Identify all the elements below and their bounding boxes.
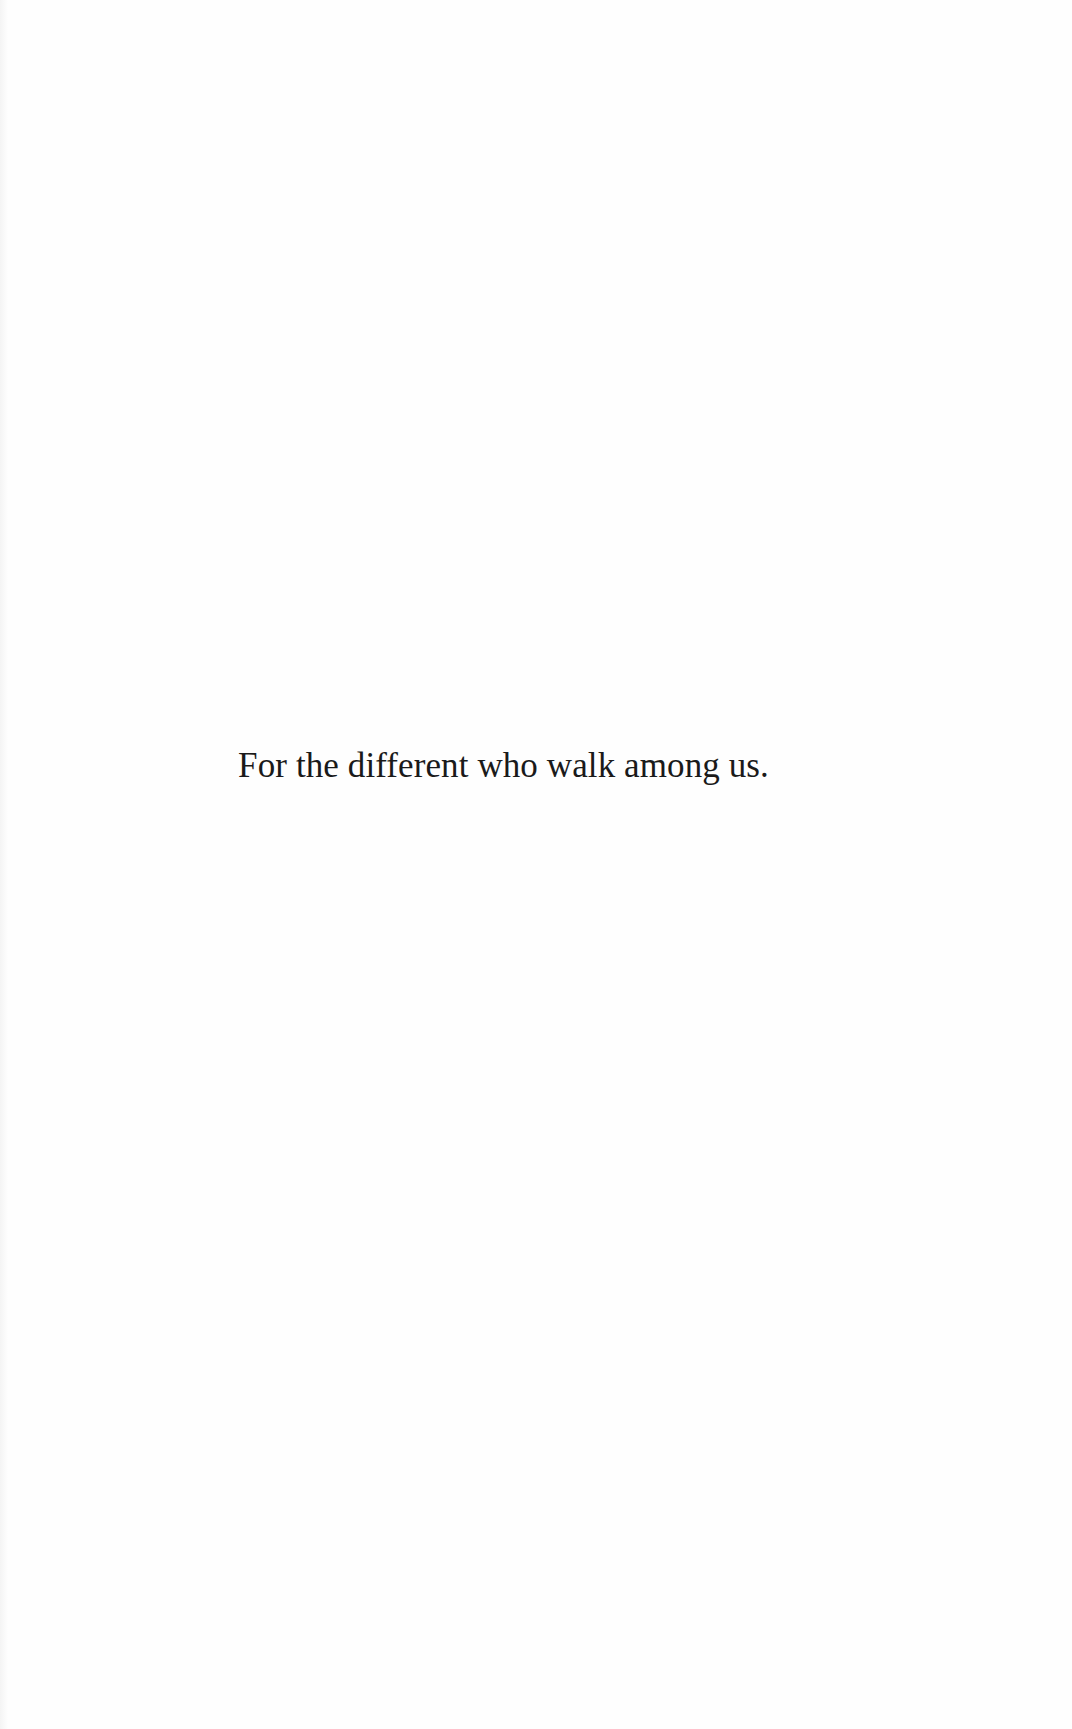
- book-page: For the different who walk among us.: [0, 0, 1072, 1729]
- dedication-text: For the different who walk among us.: [0, 744, 1007, 788]
- page-edge-shadow: [0, 0, 8, 1729]
